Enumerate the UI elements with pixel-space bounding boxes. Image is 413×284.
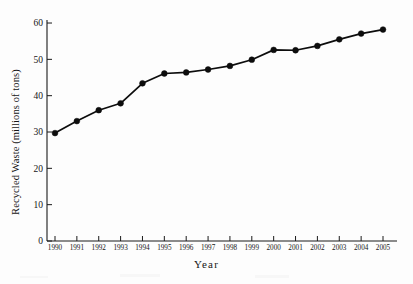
x-axis-title: Year: [0, 258, 413, 270]
data-point: [249, 57, 255, 63]
data-point: [140, 80, 146, 86]
data-point: [358, 31, 364, 37]
x-tick-label: 2001: [288, 244, 303, 252]
y-tick-label: 30: [34, 127, 44, 137]
x-tick-label: 1993: [113, 244, 128, 252]
data-point: [205, 67, 211, 73]
data-points-group: [52, 27, 386, 136]
x-tick-label: 1992: [92, 244, 107, 252]
x-tick-label: 1991: [70, 244, 85, 252]
data-point: [380, 27, 386, 33]
y-tick-label: 50: [34, 55, 44, 65]
x-tick-label: 2000: [266, 244, 281, 252]
x-tick-label: 1999: [245, 244, 260, 252]
data-point: [118, 100, 124, 106]
x-axis-ticks: 1990199119921993199419951996199719981999…: [48, 236, 391, 252]
data-point: [52, 130, 58, 136]
x-tick-label: 1990: [48, 244, 63, 252]
scan-artifact: [120, 274, 160, 277]
data-point: [336, 36, 342, 42]
x-tick-label: 1998: [223, 244, 238, 252]
data-point: [74, 118, 80, 124]
x-tick-label: 2003: [332, 244, 347, 252]
data-line-recycled-waste: [55, 30, 383, 134]
data-point: [271, 47, 277, 53]
y-tick-label: 60: [34, 18, 44, 28]
data-point: [315, 43, 321, 49]
x-tick-label: 1996: [179, 244, 194, 252]
x-tick-label: 1997: [201, 244, 216, 252]
data-point: [96, 107, 102, 113]
scan-artifact: [255, 275, 289, 278]
data-point: [183, 70, 189, 76]
x-tick-label: 2004: [354, 244, 369, 252]
data-point: [161, 71, 167, 77]
chart-figure: Recycled Waste (millions of tons) 010203…: [0, 0, 413, 284]
y-tick-label: 0: [38, 236, 43, 246]
y-tick-label: 40: [34, 91, 44, 101]
y-tick-label: 20: [34, 164, 44, 174]
data-point: [227, 63, 233, 69]
y-axis-ticks: 0102030405060: [34, 18, 53, 246]
x-tick-label: 2002: [310, 244, 325, 252]
x-tick-label: 1995: [157, 244, 172, 252]
plot-area: 0102030405060 19901991199219931994199519…: [0, 0, 413, 284]
scan-artifact: [20, 276, 48, 278]
y-tick-label: 10: [34, 200, 44, 210]
x-tick-label: 2005: [376, 244, 391, 252]
data-point: [293, 47, 299, 53]
x-tick-label: 1994: [135, 244, 150, 252]
